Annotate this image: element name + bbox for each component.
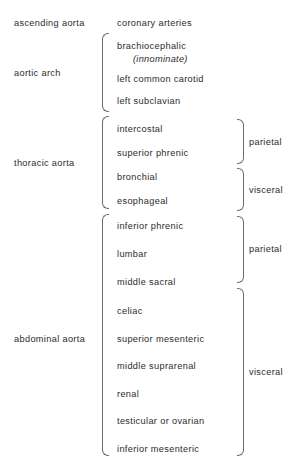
right-bracket-abdominal-parietal xyxy=(237,216,244,283)
branch-item-renal: renal xyxy=(117,388,139,400)
right-bracket-thoracic-visceral xyxy=(237,168,244,211)
branch-item-testicular-or-ovarian: testicular or ovarian xyxy=(117,415,205,427)
branch-item-esophageal: esophageal xyxy=(117,195,168,207)
branch-item-label: inferior mesenteric xyxy=(117,444,199,454)
branch-item-sublabel: (innominate) xyxy=(117,53,188,65)
branch-item-left-common-carotid: left common carotid xyxy=(117,73,204,85)
left-bracket-abdominal-aorta xyxy=(102,214,109,456)
branch-item-middle-sacral: middle sacral xyxy=(117,276,176,288)
side-label-abdominal-visceral: visceral xyxy=(249,366,283,378)
branch-item-label: brachiocephalic xyxy=(117,41,186,51)
branch-item-label: lumbar xyxy=(117,249,147,259)
branch-item-label: middle sacral xyxy=(117,277,176,287)
branch-item-label: middle suprarenal xyxy=(117,361,196,371)
side-label-thoracic-parietal: parietal xyxy=(249,136,282,148)
branch-item-label: esophageal xyxy=(117,196,168,206)
aorta-branches-diagram: ascending aorta coronary arteries aortic… xyxy=(0,0,288,469)
branch-item-label: left subclavian xyxy=(117,96,180,106)
left-bracket-aortic-arch xyxy=(102,33,109,112)
branch-item-label: left common carotid xyxy=(117,74,204,84)
branch-item-label: superior mesenteric xyxy=(117,334,204,344)
group-label-aortic-arch: aortic arch xyxy=(14,67,61,79)
right-bracket-thoracic-parietal xyxy=(237,119,244,164)
group-label-abdominal-aorta: abdominal aorta xyxy=(14,333,85,345)
branch-item-label: superior phrenic xyxy=(117,148,188,158)
branch-item-lumbar: lumbar xyxy=(117,248,147,260)
branch-item-celiac: celiac xyxy=(117,305,143,317)
side-label-thoracic-visceral: visceral xyxy=(249,184,283,196)
group-label-thoracic-aorta: thoracic aorta xyxy=(14,157,75,169)
group-label-ascending-aorta: ascending aorta xyxy=(14,17,85,29)
branch-item-label: bronchial xyxy=(117,172,157,182)
side-label-abdominal-parietal: parietal xyxy=(249,243,282,255)
branch-item-inferior-mesenteric: inferior mesenteric xyxy=(117,443,199,455)
branch-item-inferior-phrenic: inferior phrenic xyxy=(117,220,183,232)
branch-item-left-subclavian: left subclavian xyxy=(117,95,180,107)
right-bracket-abdominal-visceral xyxy=(237,288,244,456)
branch-item-label: inferior phrenic xyxy=(117,221,183,231)
branch-item-intercostal: intercostal xyxy=(117,123,163,135)
branch-item-label: renal xyxy=(117,389,139,399)
branch-item-label: intercostal xyxy=(117,124,163,134)
branch-item-superior-mesenteric: superior mesenteric xyxy=(117,333,204,345)
branch-item-bronchial: bronchial xyxy=(117,171,157,183)
branch-item-label: testicular or ovarian xyxy=(117,416,205,426)
branch-item-label: coronary arteries xyxy=(117,18,192,28)
left-bracket-thoracic-aorta xyxy=(102,116,109,209)
branch-item-superior-phrenic: superior phrenic xyxy=(117,147,188,159)
branch-item-brachiocephalic: brachiocephalic (innominate) xyxy=(117,40,188,65)
branch-item-label: celiac xyxy=(117,306,143,316)
branch-item-coronary-arteries: coronary arteries xyxy=(117,17,192,29)
branch-item-middle-suprarenal: middle suprarenal xyxy=(117,360,196,372)
